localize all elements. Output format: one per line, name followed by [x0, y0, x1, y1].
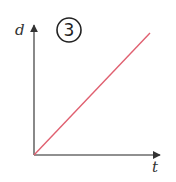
panel-number: 3 [64, 20, 75, 40]
data-line [34, 33, 150, 155]
x-axis-label: t [152, 158, 159, 176]
y-axis-label: d [15, 21, 25, 39]
distance-time-graph: d t 3 [0, 0, 176, 182]
